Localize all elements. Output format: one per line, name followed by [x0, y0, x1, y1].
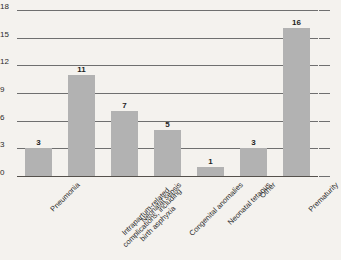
right-tick-12	[319, 65, 330, 66]
bar-value-intrapartum-related-complications: 11	[68, 65, 95, 74]
y-axis-tick-label-12: 12	[0, 57, 15, 66]
bar-neonatal-tetanus	[197, 167, 224, 176]
gridline-9	[17, 93, 318, 94]
right-tick-6	[319, 121, 330, 122]
x-axis-baseline	[17, 176, 318, 177]
right-tick-9	[319, 93, 330, 94]
bar-chart-figure: 18 15 12 9 6 3 0 3 11 7 5 1 3 16 Pneu	[0, 0, 341, 260]
bar-neonatal-sepsis	[111, 111, 138, 176]
bar-value-congenital-anomalies: 5	[154, 120, 181, 129]
y-axis-tick-label-15: 15	[0, 30, 15, 39]
right-tick-15	[319, 38, 330, 39]
bar-value-prematurity: 16	[283, 18, 310, 27]
x-axis-label-pneumonia: Pneumonia	[49, 181, 82, 214]
bar-value-neonatal-tetanus: 1	[197, 157, 224, 166]
bar-pneumonia	[25, 148, 52, 176]
right-tick-0	[319, 176, 330, 177]
gridline-12	[17, 65, 318, 66]
bar-value-neonatal-sepsis: 7	[111, 101, 138, 110]
bar-intrapartum-related-complications	[68, 75, 95, 176]
y-axis-tick-label-18: 18	[0, 2, 15, 11]
plot-area: 3 11 7 5 1 3 16	[17, 10, 318, 176]
bar-prematurity	[283, 28, 310, 176]
bar-value-other: 3	[240, 138, 267, 147]
bar-other	[240, 148, 267, 176]
y-axis-tick-label-0: 0	[0, 168, 15, 177]
right-tick-18	[319, 10, 330, 11]
y-axis-tick-label-9: 9	[0, 85, 15, 94]
x-axis-label-prematurity: Prematurity	[307, 181, 340, 214]
y-axis-tick-label-3: 3	[0, 140, 15, 149]
bar-value-pneumonia: 3	[25, 138, 52, 147]
y-axis-tick-label-6: 6	[0, 113, 15, 122]
gridline-15	[17, 38, 318, 39]
bar-congenital-anomalies	[154, 130, 181, 176]
gridline-18	[17, 10, 318, 11]
right-tick-3	[319, 148, 330, 149]
